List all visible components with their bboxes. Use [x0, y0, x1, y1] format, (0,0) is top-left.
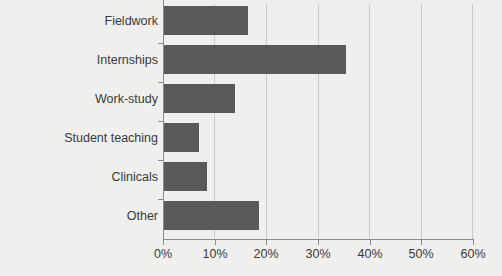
bar-work-study — [163, 84, 235, 113]
bar-other — [163, 201, 259, 230]
y-axis-tick-3 — [158, 121, 163, 122]
bar-fieldwork — [163, 6, 248, 35]
x-axis-tick-20 — [266, 239, 267, 245]
bar-student-teaching — [163, 123, 199, 152]
y-axis-line — [163, 0, 164, 243]
category-label-student-teaching: Student teaching — [64, 131, 158, 145]
y-axis-tick-4 — [158, 160, 163, 161]
x-axis-label-0: 0% — [140, 247, 186, 262]
category-axis-labels: Fieldwork Internships Work-study Student… — [0, 0, 158, 276]
x-axis-label-60: 60% — [450, 247, 496, 262]
y-axis-tick-1 — [158, 43, 163, 44]
bar-internships — [163, 45, 346, 74]
x-axis-label-40: 40% — [347, 247, 393, 262]
x-axis-label-30: 30% — [295, 247, 341, 262]
gridline-60 — [472, 4, 473, 239]
category-label-clinicals: Clinicals — [111, 170, 158, 184]
x-axis-tick-30 — [318, 239, 319, 245]
gridline-40 — [369, 4, 370, 239]
category-label-other: Other — [127, 209, 158, 223]
x-axis-tick-40 — [370, 239, 371, 245]
gridline-20 — [266, 4, 267, 239]
category-label-fieldwork: Fieldwork — [105, 14, 159, 28]
x-axis-label-10: 10% — [192, 247, 238, 262]
gridline-30 — [318, 4, 319, 239]
bar-clinicals — [163, 162, 207, 191]
gridline-50 — [421, 4, 422, 239]
x-axis-tick-0 — [163, 239, 164, 245]
y-axis-tick-5 — [158, 199, 163, 200]
category-label-internships: Internships — [97, 53, 158, 67]
x-axis-tick-50 — [421, 239, 422, 245]
x-axis-tick-60 — [473, 239, 474, 245]
y-axis-tick-2 — [158, 82, 163, 83]
x-axis-tick-10 — [215, 239, 216, 245]
bar-chart: Fieldwork Internships Work-study Student… — [0, 0, 502, 276]
plot-area — [163, 4, 473, 239]
x-axis-label-20: 20% — [243, 247, 289, 262]
x-axis-label-50: 50% — [398, 247, 444, 262]
category-label-work-study: Work-study — [95, 92, 158, 106]
